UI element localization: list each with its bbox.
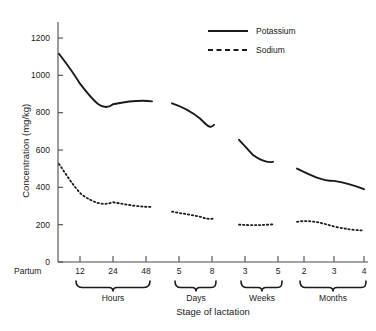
x-group-label-weeks: Weeks [227, 294, 297, 303]
series-sodium [59, 164, 364, 230]
x-group-label-months: Months [298, 294, 368, 303]
y-tick-label-600: 600 [16, 146, 50, 155]
brace-days [175, 281, 216, 292]
sodium-segment-days [172, 212, 214, 219]
x-tick-label-weeks-3: 3 [233, 267, 257, 276]
y-tick-marks [58, 38, 63, 262]
x-axis-origin-label: Partum [14, 267, 41, 276]
chart-figure: Concentration (mg/kg) 1200 1000 800 600 … [0, 0, 376, 331]
y-tick-label-200: 200 [16, 221, 50, 230]
x-tick-label-months-2: 2 [292, 267, 316, 276]
potassium-segment-months [297, 169, 364, 190]
y-tick-label-1000: 1000 [16, 71, 50, 80]
x-tick-label-days-8: 8 [200, 267, 224, 276]
y-tick-label-800: 800 [16, 108, 50, 117]
x-tick-label-days-5: 5 [167, 267, 191, 276]
brace-weeks [241, 281, 282, 292]
x-tick-label-hours-48: 48 [134, 267, 158, 276]
legend-label-sodium: Sodium [256, 46, 285, 55]
sodium-segment-weeks [239, 224, 273, 225]
x-tick-label-hours-24: 24 [101, 267, 125, 276]
legend-label-potassium: Potassium [256, 27, 296, 36]
x-tick-label-months-3: 3 [322, 267, 346, 276]
x-tick-marks [80, 256, 364, 262]
x-tick-label-weeks-5: 5 [266, 267, 290, 276]
brace-hours [76, 281, 150, 292]
x-group-label-hours: Hours [78, 294, 148, 303]
x-tick-label-hours-12: 12 [68, 267, 92, 276]
sodium-segment-hours [59, 164, 152, 207]
x-group-label-days: Days [161, 294, 231, 303]
potassium-segment-hours [59, 54, 152, 107]
series-potassium [59, 54, 364, 190]
potassium-segment-weeks [239, 140, 273, 162]
brace-months [300, 281, 366, 292]
y-tick-label-1200: 1200 [16, 34, 50, 43]
potassium-segment-days [172, 103, 214, 126]
y-tick-label-400: 400 [16, 183, 50, 192]
group-braces [76, 281, 366, 292]
x-tick-label-months-4: 4 [352, 267, 376, 276]
x-axis-title: Stage of lactation [58, 306, 368, 317]
sodium-segment-months [297, 221, 364, 230]
chart-plot-area [0, 0, 376, 331]
